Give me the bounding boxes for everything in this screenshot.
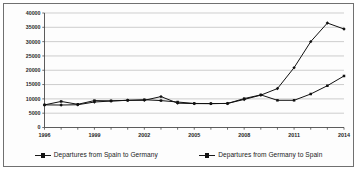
- data-point-marker: [110, 100, 113, 103]
- data-point-marker: [276, 99, 279, 102]
- line-chart-svg: 0500010000150002000025000300003500040000…: [0, 0, 357, 170]
- data-point-marker: [260, 94, 263, 97]
- data-point-marker: [293, 99, 296, 102]
- x-axis-tick-label: 2005: [188, 132, 200, 138]
- y-axis-tick-label: 15000: [26, 81, 41, 87]
- data-point-marker: [326, 84, 329, 87]
- data-point-marker: [343, 75, 346, 78]
- data-point-marker: [126, 99, 129, 102]
- data-point-marker: [176, 101, 179, 104]
- data-point-marker: [243, 97, 246, 100]
- legend-label: Departures from Germany to Spain: [218, 151, 322, 159]
- y-axis-tick-label: 20000: [26, 67, 41, 73]
- y-axis-tick-label: 10000: [26, 96, 41, 102]
- data-point-marker: [210, 102, 213, 105]
- y-axis-tick-label: 5000: [29, 110, 41, 116]
- data-series: [43, 21, 346, 106]
- legend-line-marker-icon: [35, 152, 51, 159]
- x-axis-tick-label: 2002: [138, 132, 150, 138]
- data-point-marker: [59, 103, 62, 106]
- data-point-marker: [193, 102, 196, 105]
- data-point-marker: [143, 98, 146, 101]
- data-point-marker: [60, 100, 63, 103]
- y-axis-tick-labels: 0500010000150002000025000300003500040000: [26, 10, 41, 130]
- y-axis-tick-label: 30000: [26, 39, 41, 45]
- y-axis-tick-label: 25000: [26, 53, 41, 59]
- chart-legend: Departures from Spain to Germany Departu…: [14, 146, 343, 164]
- data-point-marker: [309, 93, 312, 96]
- data-point-marker: [342, 27, 345, 30]
- series-line-1: [45, 23, 345, 105]
- legend-label: Departures from Spain to Germany: [54, 151, 158, 159]
- x-axis-tick-label: 1999: [88, 132, 100, 138]
- data-point-marker: [159, 95, 162, 98]
- x-axis-tick-labels: 1996199920022005200820112014: [39, 132, 351, 138]
- chart-plot-area: 0500010000150002000025000300003500040000…: [0, 0, 357, 170]
- x-axis-tick-label: 1996: [39, 132, 51, 138]
- x-axis-tick-label: 2011: [288, 132, 300, 138]
- data-point-marker: [160, 99, 163, 102]
- legend-line-marker-icon: [199, 152, 215, 159]
- data-point-marker: [93, 99, 96, 102]
- legend-entry-germany-to-spain: Departures from Germany to Spain: [199, 151, 322, 159]
- data-point-marker: [226, 102, 229, 105]
- y-axis-tick-label: 40000: [26, 10, 41, 16]
- data-point-marker: [43, 104, 46, 107]
- data-point-marker: [77, 103, 80, 106]
- screenshot-root: 0500010000150002000025000300003500040000…: [0, 0, 357, 170]
- x-axis-tick-label: 2008: [238, 132, 250, 138]
- y-axis-tick-label: 0: [38, 124, 41, 130]
- legend-entry-spain-to-germany: Departures from Spain to Germany: [35, 151, 158, 159]
- y-axis-tick-label: 35000: [26, 24, 41, 30]
- x-axis-tick-label: 2014: [338, 132, 350, 138]
- series-line-2: [45, 76, 345, 105]
